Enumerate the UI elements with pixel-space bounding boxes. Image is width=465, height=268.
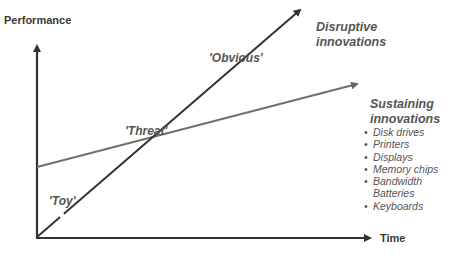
toy-label: 'Toy' [49,194,76,208]
list-item: Displays [364,151,438,163]
disruptive-line [37,10,300,237]
threat-label: 'Threat' [125,124,167,138]
disruptive-innovations-label: Disruptive innovations [316,20,386,50]
list-item: Printers [364,138,438,150]
sustaining-examples-list: Disk drives Printers Displays Memory chi… [364,126,438,212]
list-item: Disk drives [364,126,438,138]
sustaining-line2: innovations [370,112,440,127]
x-axis-label: Time [380,232,405,244]
disruptive-line2: innovations [316,35,386,50]
list-item: Batteries [364,187,438,199]
sustaining-innovations-label: Sustaining innovations [370,97,440,127]
list-item: Memory chips [364,163,438,175]
list-item: Keyboards [364,200,438,212]
sustaining-line1: Sustaining [370,97,440,112]
obvious-label: 'Obvious' [209,51,263,65]
y-axis-label: Performance [4,14,71,26]
disruptive-line1: Disruptive [316,20,386,35]
sustaining-line [37,84,357,167]
list-item: Bandwidth [364,175,438,187]
